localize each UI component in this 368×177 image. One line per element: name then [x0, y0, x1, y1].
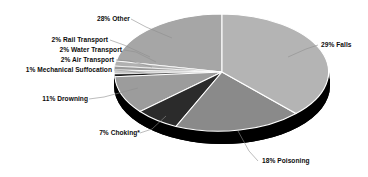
pie-slices [114, 14, 329, 131]
label-other: 28% Other [42, 15, 130, 23]
label-air-transport: 2% Air Transport [20, 56, 114, 64]
label-water-transport: 2% Water Transport [20, 46, 122, 54]
pie-chart-graphic [0, 0, 368, 177]
label-choking: 7% Choking* [85, 129, 140, 137]
label-falls: 29% Falls [321, 41, 352, 49]
label-drowning: 11% Drowning [18, 95, 88, 103]
pie-chart-figure: 28% Other 2% Rail Transport 2% Water Tra… [0, 0, 368, 177]
label-rail-transport: 2% Rail Transport [20, 36, 108, 44]
label-mechanical-suffocation: 1% Mechanical Suffocation [10, 66, 112, 74]
label-poisoning: 18% Poisoning [262, 157, 310, 165]
